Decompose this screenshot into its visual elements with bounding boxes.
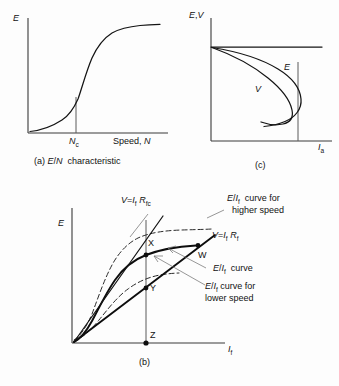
panel-a-en-curve: [30, 24, 160, 131]
panel-b-critical-line-leader: [130, 214, 148, 237]
panel-b-point-z-dot: [143, 340, 148, 345]
panel-c-v-curve: [212, 48, 292, 125]
panel-b-nominal-curve-label: E/If curve: [213, 263, 253, 275]
panel-b-caption: (b): [139, 357, 150, 367]
panel-b-x-axis-label: If: [228, 344, 232, 356]
panel-b-higher-speed-curve-label: E/If curve for higher speed: [227, 193, 284, 216]
panel-b-chart: [0, 180, 339, 355]
panel-c-caption: (c): [255, 160, 266, 170]
panel-a-x-axis-label: Speed, N: [113, 136, 151, 146]
panel-b-lower-speed-curve-label: E/If curve forlower speed: [205, 281, 255, 304]
panel-b-point-z-label: Z: [150, 330, 156, 340]
panel-b-point-w-dot: [196, 243, 201, 248]
panel-b-point-y-label: Y: [150, 283, 156, 293]
panel-c-chart: [180, 0, 339, 152]
panel-c-y-axis-label: E,V: [189, 10, 204, 20]
panel-a-caption: (a) E/N characteristic: [34, 156, 121, 166]
panel-a-y-axis-label: E: [13, 13, 19, 23]
panel-b-point-x-dot: [144, 253, 149, 258]
panel-b-point-x-label: X: [148, 238, 154, 248]
panel-b-y-axis-label: E: [58, 218, 64, 228]
panel-b-critical-resistance-line: [74, 216, 163, 342]
panel-b-point-y-dot: [144, 286, 149, 291]
panel-c: E,V Ia E V (c): [180, 0, 339, 180]
panel-b-point-w-label: W: [198, 250, 207, 260]
panel-c-e-curve-label: E: [284, 62, 290, 72]
panel-b-higher-speed-leader: [207, 210, 224, 218]
panel-b-critical-resistance-line-label: V=If Rfc: [121, 195, 151, 207]
panel-a-chart: [0, 0, 180, 150]
panel-b-field-resistance-line-label: V=If Rf: [212, 230, 238, 242]
panel-a-critical-speed-label: Nc: [69, 136, 79, 148]
panel-b: E If V=If Rfc V=If Rf E/If curve for hig…: [0, 180, 339, 386]
panel-c-v-curve-label: V: [255, 84, 261, 94]
panel-c-x-axis-label: Ia: [318, 142, 324, 154]
panel-b-lower-speed-leader: [154, 256, 205, 285]
panel-a: E Speed, N Nc (a) E/N characteristic: [0, 0, 180, 180]
